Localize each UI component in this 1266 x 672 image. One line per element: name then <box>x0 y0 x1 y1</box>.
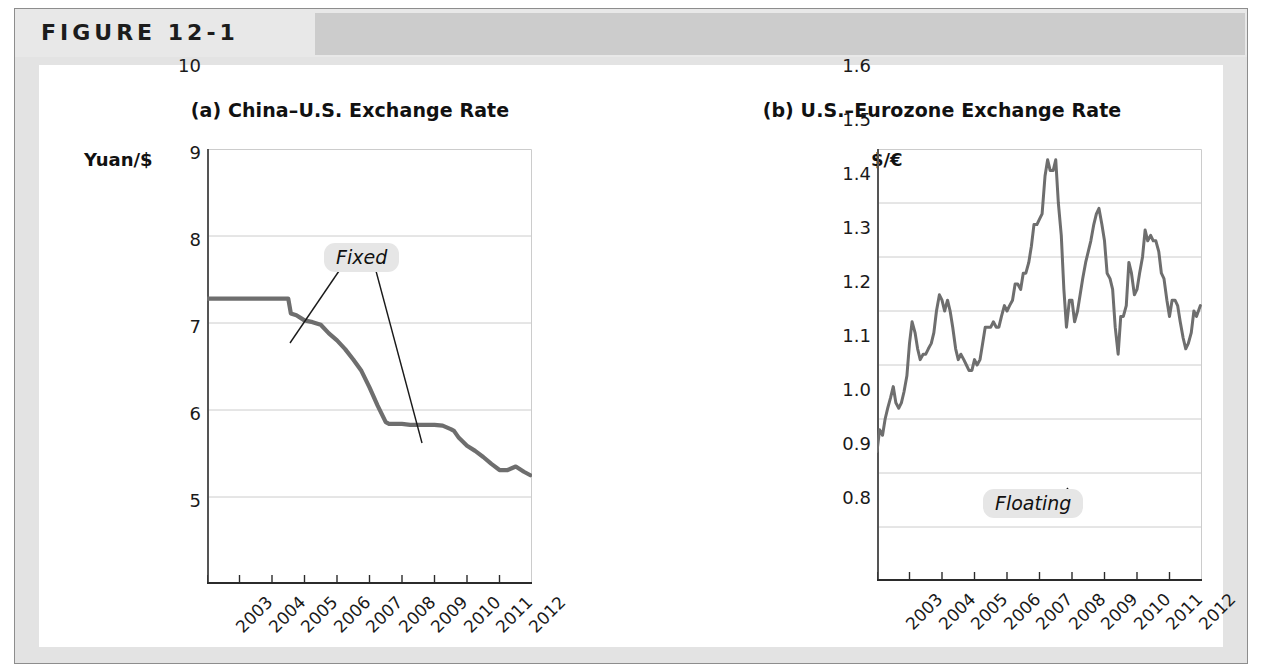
x-tick-label: 2003 <box>902 589 947 634</box>
x-tick-label: 2005 <box>297 592 342 637</box>
figure-header-band <box>315 13 1245 55</box>
x-tick-label: 2008 <box>394 592 439 637</box>
chart-panel-china-us: (a) China–U.S. Exchange Rate Yuan/$ 1098… <box>39 65 631 647</box>
figure-panel: (a) China–U.S. Exchange Rate Yuan/$ 1098… <box>39 65 1223 647</box>
x-tick-label: 2006 <box>999 589 1044 634</box>
x-tick-label: 2005 <box>967 589 1012 634</box>
figure-header: FIGURE 12-1 <box>15 9 1247 57</box>
x-tick-label: 2011 <box>492 592 537 637</box>
x-tick-label: 2007 <box>362 592 407 637</box>
annotation-fixed: Fixed <box>324 243 399 272</box>
x-tick-label: 2010 <box>1129 589 1174 634</box>
x-tick-label: 2004 <box>934 589 979 634</box>
figure-label: FIGURE 12-1 <box>41 20 239 45</box>
x-tick-label: 2011 <box>1162 589 1207 634</box>
x-tick-label: 2009 <box>427 592 472 637</box>
x-tick-label: 2010 <box>459 592 504 637</box>
figure-frame: FIGURE 12-1 (a) China–U.S. Exchange Rate… <box>14 8 1248 664</box>
chart-panel-us-eurozone: (b) U.S.–Eurozone Exchange Rate $/€ 1.61… <box>631 65 1223 647</box>
x-tick-labels-china-us: 2003200420052006200720082009201020112012 <box>39 65 631 647</box>
x-tick-label: 2004 <box>264 592 309 637</box>
x-tick-label: 2003 <box>232 592 277 637</box>
x-tick-label: 2012 <box>1194 589 1239 634</box>
x-tick-label: 2009 <box>1097 589 1142 634</box>
x-tick-label: 2008 <box>1064 589 1109 634</box>
x-tick-label: 2012 <box>524 592 569 637</box>
annotation-floating: Floating <box>983 489 1083 518</box>
x-tick-label: 2007 <box>1032 589 1077 634</box>
x-tick-label: 2006 <box>329 592 374 637</box>
x-tick-labels-us-eurozone: 2003200420052006200720082009201020112012 <box>631 65 1223 647</box>
